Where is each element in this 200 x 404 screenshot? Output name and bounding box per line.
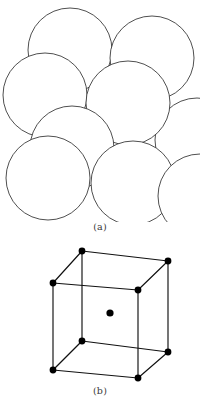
vertex-front-top-left xyxy=(50,280,57,287)
vertex-back-top-right xyxy=(165,258,172,265)
vertex-front-bottom-right xyxy=(135,375,142,382)
unit-cell-diagram xyxy=(0,236,200,388)
edge-front-top xyxy=(53,283,138,290)
panel-a-caption: (a) xyxy=(0,221,200,232)
panel-b-unit-cell xyxy=(0,236,200,388)
vertex-back-bottom-left xyxy=(79,338,86,345)
sphere-group xyxy=(3,8,200,222)
hard-sphere-diagram xyxy=(0,0,200,222)
panel-b-caption: (b) xyxy=(0,385,200,396)
edge-depth-bottom-left xyxy=(53,341,82,370)
sphere-bottom-left xyxy=(6,136,90,220)
panel-a-hard-sphere-model xyxy=(0,0,200,222)
vertex-front-top-right xyxy=(135,287,142,294)
vertex-back-bottom-right xyxy=(165,349,172,356)
edge-depth-top-left xyxy=(53,251,82,283)
figure-root: (a) (b) xyxy=(0,0,200,404)
edge-back-top xyxy=(82,251,168,261)
edge-depth-top-right xyxy=(138,261,168,290)
atom-body-center xyxy=(106,309,113,316)
vertex-back-top-left xyxy=(79,248,86,255)
edge-depth-bottom-right xyxy=(138,352,168,378)
edge-front-bottom xyxy=(53,370,138,378)
vertex-front-bottom-left xyxy=(50,367,57,374)
edge-back-bottom xyxy=(82,341,168,352)
